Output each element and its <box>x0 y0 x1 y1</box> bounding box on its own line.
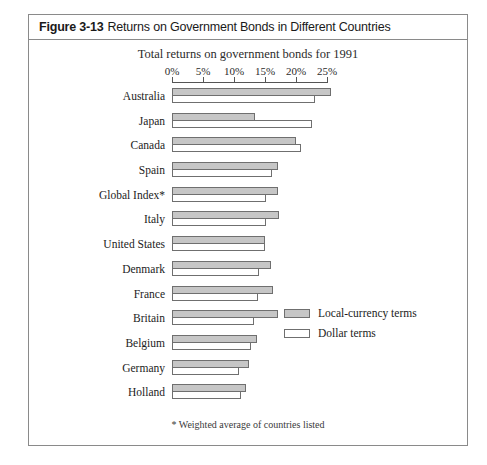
figure-frame: Figure 3-13Returns on Government Bonds i… <box>28 14 468 446</box>
bar-group <box>172 236 265 251</box>
category-label: Britain <box>29 312 165 324</box>
bar-group <box>172 211 279 226</box>
x-tick-label: 25% <box>317 65 337 77</box>
category-label: Belgium <box>29 337 165 349</box>
category-label: Spain <box>29 164 165 176</box>
chart-bar-rows: AustraliaJapanCanadaSpainGlobal Index*It… <box>29 87 469 408</box>
bar-group <box>172 286 273 301</box>
bar-group <box>172 310 278 325</box>
chart-row: Spain <box>29 161 469 186</box>
chart-legend: Local-currency terms Dollar terms <box>284 303 417 343</box>
bar-group <box>172 162 278 177</box>
chart-row: Germany <box>29 359 469 384</box>
legend-item-local-currency: Local-currency terms <box>284 303 417 323</box>
chart-row: Australia <box>29 87 469 112</box>
category-label: Denmark <box>29 263 165 275</box>
bar-group <box>172 187 278 202</box>
bar-dollar <box>172 169 272 177</box>
x-tick-label: 20% <box>286 65 306 77</box>
legend-item-dollar: Dollar terms <box>284 323 417 343</box>
category-label: Italy <box>29 213 165 225</box>
x-tick-mark <box>203 77 204 83</box>
legend-label-dollar: Dollar terms <box>318 327 376 339</box>
category-label: Japan <box>29 115 165 127</box>
bar-group <box>172 335 257 350</box>
chart-row: Canada <box>29 136 469 161</box>
chart-row: Holland <box>29 383 469 408</box>
legend-label-local: Local-currency terms <box>318 307 417 319</box>
chart-plot-area: 0%5%10%15%20%25% AustraliaJapanCanadaSpa… <box>29 15 469 447</box>
x-tick-mark <box>296 77 297 83</box>
bar-group <box>172 88 331 103</box>
bar-group <box>172 360 249 375</box>
bar-group <box>172 261 271 276</box>
bar-dollar <box>172 293 258 301</box>
x-tick-mark <box>265 77 266 83</box>
chart-row: Global Index* <box>29 186 469 211</box>
bar-group <box>172 384 246 399</box>
chart-row: United States <box>29 235 469 260</box>
bar-dollar <box>172 243 265 251</box>
bar-dollar <box>172 194 266 202</box>
category-label: Canada <box>29 139 165 151</box>
category-label: France <box>29 288 165 300</box>
category-label: Global Index* <box>29 189 165 201</box>
legend-swatch-dollar-icon <box>284 329 310 338</box>
bar-dollar <box>172 268 259 276</box>
x-tick-label: 15% <box>255 65 275 77</box>
x-tick-mark <box>327 77 328 83</box>
category-label: Australia <box>29 90 165 102</box>
chart-row: Denmark <box>29 260 469 285</box>
x-tick-label: 0% <box>165 65 180 77</box>
category-label: United States <box>29 238 165 250</box>
x-tick-mark <box>234 77 235 83</box>
chart-row: Japan <box>29 112 469 137</box>
bar-dollar <box>172 317 254 325</box>
bar-dollar <box>172 95 315 103</box>
bar-dollar <box>172 367 239 375</box>
x-tick-label: 5% <box>196 65 211 77</box>
bar-dollar <box>172 144 301 152</box>
bar-group <box>172 137 301 152</box>
category-label: Holland <box>29 386 165 398</box>
category-label: Germany <box>29 362 165 374</box>
bar-dollar <box>172 342 251 350</box>
chart-footnote: * Weighted average of countries listed <box>29 419 467 430</box>
bar-dollar <box>172 120 312 128</box>
bar-dollar <box>172 391 241 399</box>
bar-dollar <box>172 218 266 226</box>
legend-swatch-local-icon <box>284 309 310 318</box>
x-tick-mark <box>172 77 173 83</box>
x-tick-label: 10% <box>224 65 244 77</box>
bar-group <box>172 113 312 128</box>
x-axis-line <box>172 82 328 83</box>
chart-row: Italy <box>29 210 469 235</box>
